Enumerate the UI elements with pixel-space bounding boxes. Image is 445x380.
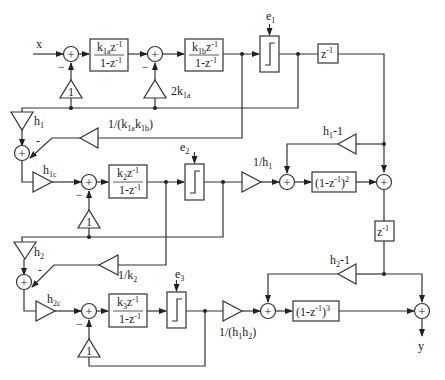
minus-sign-interstage-1: -: [36, 134, 40, 148]
svg-text:+: +: [20, 275, 27, 290]
gain-h2: [14, 242, 36, 259]
integrator-k3: k3z-1 1-z-1: [109, 294, 147, 327]
gain-h2-label: h2: [34, 245, 44, 261]
gain-h2c-label: h2c: [47, 292, 61, 308]
svg-text:+: +: [151, 47, 158, 62]
input-label: x: [36, 37, 42, 51]
svg-text:1: 1: [68, 85, 74, 99]
feedback-gain-stage2: 1: [78, 210, 100, 229]
stage-2: + − k2z-1 1-z-1 e2 1: [22, 140, 242, 242]
integrator-k2: k2z-1 1-z-1: [109, 165, 147, 198]
feedback-gain-stage3: 1: [78, 339, 100, 358]
svg-text:+: +: [18, 146, 25, 161]
feedback-gain-2k1a: [144, 80, 166, 98]
gain-h2-minus-1: [338, 264, 356, 284]
gain-h2-minus-1-label: h2-1: [330, 253, 350, 269]
gain-inv-h1h2: [223, 301, 242, 321]
summer-1b: +: [148, 47, 163, 62]
combiner-1: 1/h1 + (1-z-1)2 + h1-1 z-1: [242, 124, 394, 274]
svg-text:+: +: [85, 304, 92, 319]
quantizer-3: [167, 292, 186, 328]
diff-filter-order3: (1-z-1)3: [293, 301, 339, 321]
integrator-k1b: k1bz-1 1-z-1: [185, 39, 223, 71]
gain-2k1a-label: 2k1a: [171, 84, 191, 100]
gain-inv-h1h2-label: 1/(h1h2): [219, 325, 256, 341]
stage-3: + − k3z-1 1-z-1 e3 1: [76, 267, 223, 366]
minus-sign-1b: −: [142, 60, 149, 74]
minus-sign-1a: −: [58, 60, 65, 74]
summer-1a: +: [64, 47, 79, 62]
svg-text:1: 1: [86, 344, 92, 358]
delay-z1-top: z-1: [318, 44, 338, 63]
e1-label: e1: [266, 9, 275, 25]
gain-h1-label: h1: [34, 114, 44, 130]
minus-sign-interstage-2: -: [38, 263, 42, 277]
gain-inv-h1-label: 1/h1: [253, 155, 272, 171]
summer-combiner-1b: +: [377, 175, 392, 190]
integrator-k1a: k1az-1 1-z-1: [90, 39, 128, 71]
svg-text:+: +: [418, 304, 425, 319]
gain-h1c-label: h1c: [43, 163, 57, 179]
svg-text:+: +: [264, 304, 271, 319]
gain-inv-h1: [242, 172, 261, 192]
svg-text:(1-z-1)3: (1-z-1)3: [296, 304, 330, 319]
quantizer-1: [260, 36, 279, 72]
summer-3: +: [82, 304, 97, 319]
quantizer-2: [185, 164, 204, 200]
e2-label: e2: [180, 140, 189, 156]
svg-text:+: +: [380, 175, 387, 190]
minus-sign-3: −: [76, 317, 83, 331]
svg-text:+: +: [67, 47, 74, 62]
svg-text:(1-z-1)2: (1-z-1)2: [315, 175, 349, 190]
gain-inv-k2-label: 1/k2: [118, 268, 137, 284]
gain-h1: [11, 112, 33, 130]
svg-text:+: +: [85, 175, 92, 190]
delay-z1-combiner: z-1: [375, 221, 394, 241]
summer-combiner-2b: +: [415, 304, 430, 319]
gain-h1-minus-1-label: h1-1: [323, 124, 343, 140]
summer-combiner-2a: +: [261, 304, 276, 319]
combiner-2: 1/(h1h2) + (1-z-1)3 + h2-1 y: [219, 253, 430, 353]
gain-inv-k1a-k1b-label: 1/(k1ak1b): [108, 117, 153, 133]
summer-interstage-2: +: [17, 275, 32, 290]
summer-2: +: [82, 175, 97, 190]
summer-interstage-1: +: [15, 146, 30, 161]
summer-combiner-1a: +: [280, 175, 295, 190]
svg-text:+: +: [283, 175, 290, 190]
mash-sigma-delta-block-diagram: x + − k1az-1 1-z-1 + − k1bz-1 1-z-1: [0, 0, 445, 380]
feedback-gain-1: 1: [60, 80, 82, 99]
gain-inv-k2: [99, 255, 118, 275]
svg-text:1: 1: [86, 215, 92, 229]
gain-inv-k1a-k1b: [80, 128, 98, 148]
stage-1: x + − k1az-1 1-z-1 + − k1bz-1 1-z-1: [22, 9, 384, 172]
minus-sign-2: −: [76, 188, 83, 202]
output-label: y: [418, 339, 424, 353]
diff-filter-order2: (1-z-1)2: [312, 172, 356, 192]
